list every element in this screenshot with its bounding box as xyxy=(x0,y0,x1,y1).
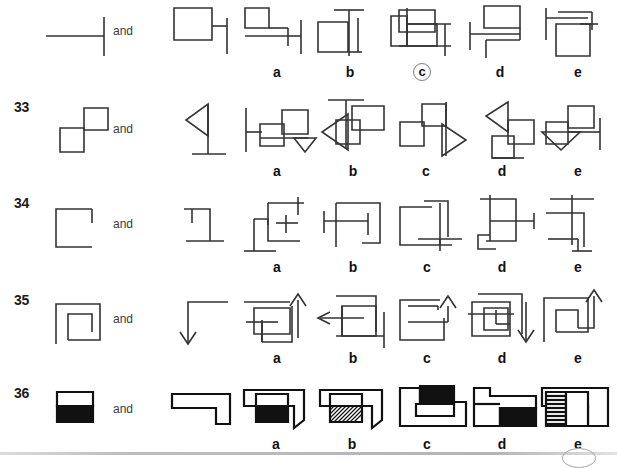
second-shape xyxy=(172,6,252,62)
option-letter-b: b xyxy=(343,163,363,179)
question-row: and xyxy=(0,0,617,92)
option-letter-c: c xyxy=(416,163,436,179)
selected-answer-marker[interactable]: c xyxy=(413,63,433,83)
option-letter-d: d xyxy=(492,436,512,452)
option-figure-e[interactable] xyxy=(538,284,617,356)
option-figure-c[interactable] xyxy=(389,4,475,64)
option-letter-d: d xyxy=(492,163,512,179)
option-figure-c[interactable] xyxy=(398,100,484,164)
option-figure-a[interactable] xyxy=(242,193,328,261)
option-figure-c[interactable] xyxy=(396,193,482,259)
second-shape xyxy=(172,294,248,354)
question-row-35: 35 and xyxy=(0,282,617,374)
option-letter-c: c xyxy=(417,350,437,366)
option-letter-c: c xyxy=(417,259,437,275)
row-number-34: 34 xyxy=(14,195,29,211)
option-letter-e: e xyxy=(568,163,588,179)
option-letter-b: b xyxy=(342,436,362,452)
option-letter-a: a xyxy=(267,350,287,366)
option-letter-e: e xyxy=(568,259,588,275)
page-number-circle xyxy=(562,448,596,468)
option-figure-e[interactable] xyxy=(538,382,617,438)
row-number-33: 33 xyxy=(14,99,29,115)
option-figure-a[interactable] xyxy=(240,384,326,438)
option-figure-b[interactable] xyxy=(314,286,404,356)
option-letter-c: c xyxy=(413,64,431,79)
option-letter-a: a xyxy=(267,64,287,80)
option-figure-a[interactable] xyxy=(242,100,328,162)
row-number-36: 36 xyxy=(14,385,29,401)
option-letter-a: a xyxy=(267,163,287,179)
and-label: and xyxy=(113,24,133,38)
option-letter-a: a xyxy=(267,259,287,275)
option-figure-d[interactable] xyxy=(466,4,546,64)
second-shape xyxy=(172,201,242,257)
question-row-34: 34 and xyxy=(0,187,617,282)
option-letter-d: d xyxy=(492,350,512,366)
option-figure-a[interactable] xyxy=(243,6,323,62)
option-letter-e: e xyxy=(568,64,588,80)
row-number-35: 35 xyxy=(14,292,29,308)
prompt-shape xyxy=(48,296,118,352)
option-figure-b[interactable] xyxy=(322,193,402,257)
option-letter-b: b xyxy=(343,259,363,275)
and-label: and xyxy=(113,402,133,416)
option-figure-e[interactable] xyxy=(542,191,617,259)
footer-rule xyxy=(0,452,617,455)
option-figure-e[interactable] xyxy=(540,100,617,162)
option-letter-a: a xyxy=(266,436,286,452)
second-shape xyxy=(178,100,248,162)
question-row-33: 33 and xyxy=(0,92,617,187)
and-label: and xyxy=(113,217,133,231)
option-figure-e[interactable] xyxy=(540,4,617,66)
second-shape xyxy=(168,386,248,436)
option-figure-b[interactable] xyxy=(318,96,404,164)
option-letter-b: b xyxy=(340,64,360,80)
prompt-shape xyxy=(54,388,114,436)
option-letter-e: e xyxy=(568,350,588,366)
option-figure-b[interactable] xyxy=(316,384,402,438)
question-row-36: 36 and xyxy=(0,374,617,462)
option-letter-d: d xyxy=(492,259,512,275)
prompt-shape xyxy=(48,201,118,257)
option-figure-b[interactable] xyxy=(316,6,396,64)
option-figure-d[interactable] xyxy=(472,191,552,259)
option-letter-b: b xyxy=(343,350,363,366)
option-letter-d: d xyxy=(490,64,510,80)
and-label: and xyxy=(113,122,133,136)
option-letter-c: c xyxy=(417,436,437,452)
and-label: and xyxy=(113,312,133,326)
